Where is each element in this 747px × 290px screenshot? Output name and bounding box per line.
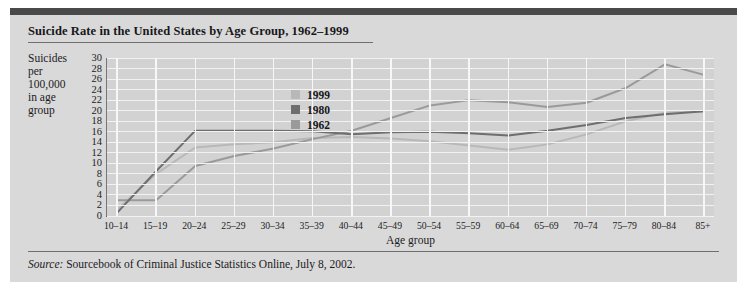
gridline-vertical xyxy=(703,58,705,216)
gridline-vertical xyxy=(351,58,353,216)
plot-area xyxy=(106,50,715,218)
legend-swatch-icon xyxy=(291,120,300,129)
gridline-vertical xyxy=(155,58,157,216)
x-tick-label: 35–39 xyxy=(300,220,324,231)
legend-label: 1980 xyxy=(307,104,330,116)
source-value: Sourcebook of Criminal Justice Statistic… xyxy=(63,258,355,270)
gridline-horizontal xyxy=(107,163,714,164)
gridline-horizontal xyxy=(107,79,714,80)
x-axis-ticks: 10–1415–1920–2425–2930–3435–3940–4445–49… xyxy=(106,220,715,234)
x-tick-label: 55–59 xyxy=(456,220,480,231)
legend-item-1999[interactable]: 1999 xyxy=(291,88,361,101)
legend-item-1980[interactable]: 1980 xyxy=(291,103,361,116)
legend-swatch-icon xyxy=(291,105,300,114)
gridline-horizontal xyxy=(107,89,714,90)
gridline-horizontal xyxy=(107,68,714,69)
title-divider xyxy=(28,42,373,43)
gridline-horizontal xyxy=(107,152,714,153)
x-tick-label: 25–29 xyxy=(221,220,245,231)
legend-label: 1999 xyxy=(307,89,330,101)
source-note: Source: Sourcebook of Criminal Justice S… xyxy=(28,258,355,270)
x-tick-label: 40–44 xyxy=(339,220,363,231)
gridline-vertical xyxy=(312,58,314,216)
gridline-horizontal xyxy=(107,110,714,111)
y-tick-label: 0 xyxy=(97,211,102,222)
figure-panel: Suicide Rate in the United States by Age… xyxy=(10,8,737,282)
chart-legend: 199919801962 xyxy=(291,88,361,133)
x-axis-title: Age group xyxy=(106,234,715,246)
x-tick-label: 70–74 xyxy=(573,220,597,231)
x-tick-label: 80–84 xyxy=(652,220,676,231)
x-tick-label: 30–34 xyxy=(260,220,284,231)
gridline-vertical xyxy=(195,58,197,216)
gridline-vertical xyxy=(273,58,275,216)
gridline-horizontal xyxy=(107,216,714,217)
gridline-vertical xyxy=(586,58,588,216)
gridline-horizontal xyxy=(107,205,714,206)
x-tick-label: 45–49 xyxy=(378,220,402,231)
x-tick-label: 10–14 xyxy=(104,220,128,231)
legend-swatch-icon xyxy=(291,90,300,99)
gridline-horizontal xyxy=(107,173,714,174)
chart-title: Suicide Rate in the United States by Age… xyxy=(28,24,349,39)
y-axis-ticks: 302826242220181614121086420 xyxy=(72,50,102,226)
series-lines xyxy=(107,58,714,216)
gridline-vertical xyxy=(547,58,549,216)
gridline-horizontal xyxy=(107,131,714,132)
gridline-horizontal xyxy=(107,142,714,143)
x-tick-label: 65–69 xyxy=(534,220,558,231)
gridline-horizontal xyxy=(107,121,714,122)
gridline-vertical xyxy=(429,58,431,216)
legend-item-1962[interactable]: 1962 xyxy=(291,118,361,131)
x-tick-label: 50–54 xyxy=(417,220,441,231)
gridline-vertical xyxy=(116,58,118,216)
x-tick-label: 15–19 xyxy=(143,220,167,231)
x-tick-label: 75–79 xyxy=(613,220,637,231)
gridline-vertical xyxy=(625,58,627,216)
source-label: Source: xyxy=(28,258,63,270)
x-tick-label: 60–64 xyxy=(495,220,519,231)
gridline-vertical xyxy=(234,58,236,216)
gridline-vertical xyxy=(664,58,666,216)
top-rule-bar xyxy=(10,8,737,15)
x-tick-label: 85+ xyxy=(695,220,710,231)
gridline-horizontal xyxy=(107,184,714,185)
gridline-horizontal xyxy=(107,194,714,195)
plot-canvas xyxy=(106,58,714,217)
legend-label: 1962 xyxy=(307,119,330,131)
gridline-horizontal xyxy=(107,100,714,101)
gridline-vertical xyxy=(508,58,510,216)
x-tick-label: 20–24 xyxy=(182,220,206,231)
gridline-vertical xyxy=(468,58,470,216)
gridline-horizontal xyxy=(107,58,714,59)
gridline-vertical xyxy=(390,58,392,216)
source-divider xyxy=(28,251,719,252)
